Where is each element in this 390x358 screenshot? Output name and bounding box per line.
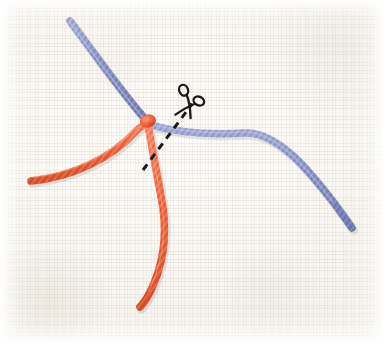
craft-illustration-scene: scissors cut here Cut the joined cords a… — [0, 0, 390, 358]
cut-guide-dashed-line — [143, 104, 192, 170]
scissors-pivot — [189, 103, 192, 106]
scissors-icon — [175, 84, 205, 119]
annotation-layer — [0, 0, 390, 358]
scissors-handle-loop-right — [192, 95, 206, 108]
